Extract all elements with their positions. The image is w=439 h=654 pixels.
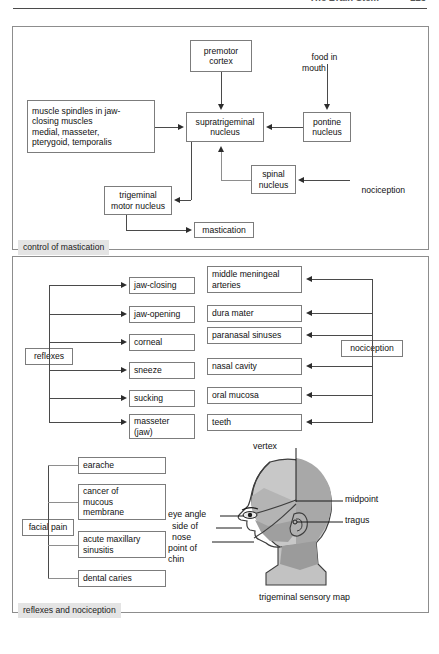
reflex-item-sucking-label: sucking [130, 393, 194, 403]
head-label-side-of-nose-text: side of nose [172, 521, 198, 542]
connector-facial-pain-spine [48, 465, 49, 578]
arrowhead-nociception-to-spinal [298, 177, 304, 183]
node-premotor-cortex: premotor cortex [190, 40, 252, 72]
connector-premotor-to-supratrigeminal [221, 72, 222, 104]
node-food-in-mouth-label: food in mouth [302, 52, 337, 72]
head-label-eye-angle: eye angle [168, 509, 206, 519]
head-figure-caption-text: trigeminal sensory map [259, 592, 350, 602]
node-supratrigeminal-nucleus-label: supratrigeminal nucleus [187, 117, 263, 138]
node-trigeminal-motor-nucleus: trigeminal motor nucleus [104, 186, 172, 215]
arrowhead-nociception-arm-4 [306, 363, 312, 369]
facial-pain-cause-acute-maxillary-sinusitis-label: acute maxillary sinusitis [79, 534, 165, 555]
arrowhead-reflex-arm-4 [121, 367, 127, 373]
reflex-item-sneeze: sneeze [129, 362, 195, 379]
node-trigeminal-motor-nucleus-label: trigeminal motor nucleus [105, 190, 171, 211]
nociception-target-nasal-cavity: nasal cavity [207, 358, 302, 375]
connector-nociception-arm-4 [312, 366, 372, 367]
nociception-target-paranasal-sinuses-label: paranasal sinuses [208, 330, 301, 340]
node-mastication: mastication [194, 222, 254, 238]
head-label-vertex-text: vertex [253, 441, 277, 451]
connector-facial-pain-arm-3 [48, 545, 78, 546]
facial-pain-cause-acute-maxillary-sinusitis: acute maxillary sinusitis [78, 531, 166, 558]
arrowhead-reflex-arm-3 [121, 339, 127, 345]
node-supratrigeminal-nucleus: supratrigeminal nucleus [186, 112, 264, 142]
arrowhead-nociception-arm-1 [306, 276, 312, 282]
head-label-tragus-text: tragus [345, 515, 369, 525]
reflex-item-jaw-closing: jaw-closing [129, 277, 195, 294]
reflex-item-jaw-opening: jaw-opening [129, 306, 195, 323]
arrowhead-nociception-arm-3 [306, 332, 312, 338]
nociception-target-teeth: teeth [207, 414, 302, 431]
reflex-item-jaw-closing-label: jaw-closing [130, 280, 194, 290]
reflex-item-corneal-label: corneal [130, 337, 194, 347]
running-head-title: The Brain Stem [309, 0, 379, 3]
arrowhead-reflex-arm-5 [121, 395, 127, 401]
nociception-target-oral-mucosa: oral mucosa [207, 387, 302, 404]
nociception-target-paranasal-sinuses: paranasal sinuses [207, 327, 302, 344]
node-muscle-spindles-label: muscle spindles in jaw- closing muscles … [28, 106, 154, 148]
connector-nociception-arm-6 [312, 422, 372, 423]
arrowhead-nociception-arm-5 [306, 392, 312, 398]
connector-food-to-pontine [327, 64, 328, 104]
pupil-shape [248, 513, 252, 517]
panel-caption-reflexes-and-nociception: reflexes and nociception [18, 603, 121, 618]
head-label-midpoint: midpoint [345, 494, 378, 504]
node-pontine-nucleus: pontine nucleus [303, 112, 351, 142]
nociception-target-teeth-label: teeth [208, 417, 301, 427]
head-label-midpoint-text: midpoint [345, 494, 378, 504]
arrowhead-spindles-to-supratrigeminal [178, 124, 184, 130]
arrowhead-nociception-arm-2 [306, 310, 312, 316]
connector-nociception-arm-1 [312, 279, 372, 280]
reflex-item-corneal: corneal [129, 334, 195, 351]
arrowhead-reflex-arm-2 [121, 311, 127, 317]
reflex-item-masseter-jaw: masseter (jaw) [129, 414, 195, 439]
connector-supratrigeminal-to-motor-horizontal [180, 200, 191, 201]
panel-caption-control-of-mastication: control of mastication [18, 240, 109, 255]
facial-pain-cause-earache: earache [78, 457, 166, 474]
node-nociception-panel1: nociception [352, 175, 405, 206]
arrowhead-spinal-to-supratrigeminal [218, 146, 224, 152]
connector-reflex-arm-1 [49, 285, 121, 286]
connector-nociception-bus [372, 279, 373, 423]
running-head-rule [13, 8, 427, 9]
head-label-point-of-chin-text: point of chin [168, 543, 197, 564]
connector-reflex-arm-3 [49, 342, 121, 343]
nociception-target-middle-meningeal-arteries: middle meningeal arteries [207, 266, 302, 293]
connector-spinal-to-supratrigeminal-horizontal [221, 180, 251, 181]
node-spinal-nucleus: spinal nucleus [251, 165, 296, 194]
node-muscle-spindles: muscle spindles in jaw- closing muscles … [27, 100, 155, 153]
node-pontine-nucleus-label: pontine nucleus [304, 117, 350, 138]
nociception-target-dura-mater-label: dura mater [208, 308, 301, 318]
arrowhead-premotor-to-supratrigeminal [218, 104, 224, 110]
reflex-item-sucking: sucking [129, 390, 195, 407]
nociception-target-nasal-cavity-label: nasal cavity [208, 361, 301, 371]
facial-pain-cause-earache-label: earache [79, 460, 165, 470]
node-food-in-mouth: food in mouth [302, 42, 337, 84]
figure-page: The Brain Stem 223 premotor cortex food … [0, 0, 439, 654]
connector-nociception-to-spinal [304, 180, 350, 181]
connector-supratrigeminal-to-motor-vertical [191, 142, 192, 200]
panel-caption-control-of-mastication-label: control of mastication [23, 242, 104, 252]
head-label-side-of-nose: side of nose [172, 521, 198, 542]
connector-facial-pain-arm-1 [48, 465, 78, 466]
arrowhead-nociception-arm-6 [306, 419, 312, 425]
connector-reflex-arm-5 [49, 398, 121, 399]
node-nociception-panel1-label: nociception [362, 185, 405, 195]
head-figure-caption: trigeminal sensory map [259, 592, 350, 602]
connector-motor-to-mastication-vertical [126, 215, 127, 230]
connector-nociception-arm-5 [312, 395, 372, 396]
reflex-item-jaw-opening-label: jaw-opening [130, 309, 194, 319]
connector-reflex-arm-4 [49, 370, 121, 371]
facial-pain-cause-dental-caries: dental caries [78, 570, 166, 587]
connector-spindles-to-supratrigeminal [155, 127, 178, 128]
connector-motor-to-mastication-horizontal [126, 230, 186, 231]
arrowhead-reflex-arm-1 [121, 282, 127, 288]
connector-reflex-arm-2 [49, 314, 121, 315]
arrowhead-food-to-pontine [324, 104, 330, 110]
connector-reflexes-spine [49, 285, 50, 422]
head-label-point-of-chin: point of chin [168, 543, 197, 564]
running-head-page-number: 223 [410, 0, 426, 3]
node-spinal-nucleus-label: spinal nucleus [252, 169, 295, 190]
facial-pain-cause-cancer-of-mucous-membrane-label: cancer of mucous membrane [79, 486, 165, 517]
head-label-eye-angle-text: eye angle [168, 509, 206, 519]
